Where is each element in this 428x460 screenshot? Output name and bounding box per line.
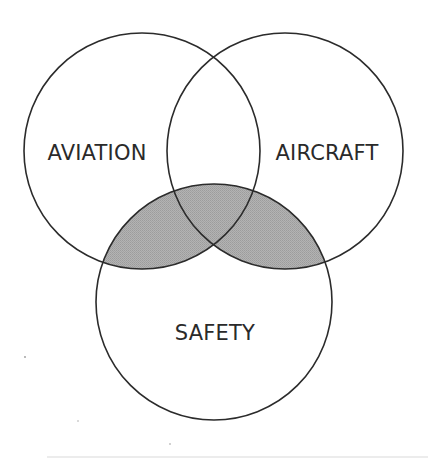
scan-speck xyxy=(169,443,171,445)
scan-speck xyxy=(77,420,78,421)
aviation-label: AVIATION xyxy=(47,141,146,165)
aircraft-label: AIRCRAFT xyxy=(275,141,378,165)
scan-speck xyxy=(24,356,26,358)
safety-label: SAFETY xyxy=(175,321,255,345)
venn-diagram: AVIATION AIRCRAFT SAFETY xyxy=(0,0,428,460)
